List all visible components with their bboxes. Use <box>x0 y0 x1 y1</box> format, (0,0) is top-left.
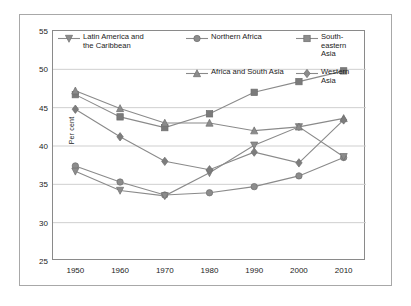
chart-legend: Northern Africa South-eastern Asia Latin… <box>58 33 358 86</box>
x-axis-tick: 1980 <box>201 266 219 275</box>
legend-item-northern-africa[interactable]: Northern Africa <box>186 33 296 59</box>
legend-item-latin-america-caribbean[interactable]: Latin America and the Caribbean <box>58 33 186 86</box>
y-axis-tick: 25 <box>39 257 48 266</box>
x-axis-tick: 1990 <box>245 266 263 275</box>
y-axis-tick: 50 <box>39 65 48 74</box>
legend-label: Africa and South Asia <box>211 68 284 77</box>
diamond-marker-icon <box>296 69 318 81</box>
y-axis-tick: 55 <box>39 27 48 36</box>
triangle-up-marker-icon <box>186 69 208 81</box>
series-2 <box>72 124 347 200</box>
y-axis-label: Per cent <box>68 91 75 171</box>
legend-item-western-asia[interactable]: Western Asia <box>296 68 358 85</box>
x-axis-tick: 1950 <box>66 266 84 275</box>
circle-marker-icon <box>186 34 208 46</box>
y-axis-tick: 30 <box>39 218 48 227</box>
legend-item-africa-and-south-asia[interactable]: Africa and South Asia <box>186 68 296 85</box>
y-axis-tick: 45 <box>39 103 48 112</box>
x-axis-tick: 2010 <box>335 266 353 275</box>
legend-item-south-eastern-asia[interactable]: South-eastern Asia <box>296 33 358 59</box>
legend-label: South-eastern Asia <box>321 33 358 59</box>
legend-label: Western Asia <box>321 68 358 85</box>
x-axis-tick: 1960 <box>111 266 129 275</box>
y-axis-tick: 40 <box>39 142 48 151</box>
square-marker-icon <box>296 34 318 46</box>
y-axis-tick: 35 <box>39 180 48 189</box>
legend-label: Latin America and the Caribbean <box>83 33 144 50</box>
chart-figure: Per cent 2530354045505519501960197019801… <box>0 0 411 306</box>
triangle-down-marker-icon <box>58 34 80 46</box>
x-axis-tick: 1970 <box>156 266 174 275</box>
legend-label: Northern Africa <box>211 33 262 42</box>
x-axis-tick: 2000 <box>290 266 308 275</box>
